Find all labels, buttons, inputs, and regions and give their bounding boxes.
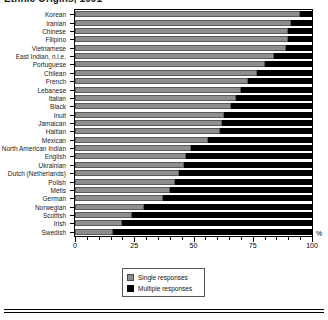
bar-row bbox=[75, 212, 312, 218]
bar-row bbox=[75, 95, 312, 101]
category-label: Filipino bbox=[45, 36, 66, 43]
bar-row bbox=[75, 103, 312, 109]
category-label: French bbox=[46, 78, 66, 85]
legend-item: Multiple responses bbox=[127, 283, 200, 294]
bar-row bbox=[75, 61, 312, 67]
category-tick bbox=[70, 123, 74, 124]
bar-segment-multiple bbox=[248, 78, 312, 84]
bar-row bbox=[75, 220, 312, 226]
bar-row bbox=[75, 137, 312, 143]
bar-row bbox=[75, 78, 312, 84]
x-axis-tick-label: 100 bbox=[306, 242, 318, 249]
bar-segment-multiple bbox=[257, 70, 312, 76]
category-tick bbox=[70, 98, 74, 99]
bar-segment-single bbox=[75, 229, 113, 235]
bar-segment-single bbox=[75, 61, 265, 67]
bar-row bbox=[75, 153, 312, 159]
x-axis-tick-label: 0 bbox=[73, 242, 77, 249]
bar-row bbox=[75, 112, 312, 118]
category-label: Ukrainian bbox=[39, 161, 66, 168]
category-label: Norwegian bbox=[35, 203, 66, 210]
category-tick bbox=[70, 48, 74, 49]
bar-segment-multiple bbox=[175, 179, 312, 185]
category-label: Métis bbox=[50, 186, 66, 193]
x-axis-minor-tick bbox=[205, 237, 206, 240]
x-axis-minor-tick bbox=[87, 237, 88, 240]
bar-segment-multiple bbox=[113, 229, 312, 235]
x-axis-minor-tick bbox=[241, 237, 242, 240]
bar-segment-single bbox=[75, 87, 241, 93]
bar-segment-single bbox=[75, 170, 179, 176]
bar-segment-single bbox=[75, 28, 288, 34]
bar-segment-single bbox=[75, 179, 175, 185]
bar-segment-multiple bbox=[184, 162, 312, 168]
category-tick bbox=[70, 115, 74, 116]
bar-segment-multiple bbox=[236, 95, 312, 101]
bar-row bbox=[75, 179, 312, 185]
bar-segment-multiple bbox=[286, 45, 312, 51]
category-label: Vietnamese bbox=[32, 44, 66, 51]
bar-segment-single bbox=[75, 195, 163, 201]
bar-row bbox=[75, 45, 312, 51]
bar-segment-single bbox=[75, 153, 186, 159]
bar-row bbox=[75, 229, 312, 235]
bar-segment-single bbox=[75, 36, 288, 42]
bar-row bbox=[75, 204, 312, 210]
bar-row bbox=[75, 28, 312, 34]
category-tick bbox=[70, 14, 74, 15]
category-label: Polish bbox=[48, 178, 66, 185]
category-label: Chilean bbox=[44, 69, 66, 76]
category-label: Iranian bbox=[46, 19, 66, 26]
x-axis-tick-label: 25 bbox=[130, 242, 138, 249]
category-label: Haitian bbox=[46, 128, 66, 135]
x-axis-tick-label: 50 bbox=[190, 242, 198, 249]
category-label: Portuguese bbox=[33, 61, 66, 68]
category-label: Inuit bbox=[54, 111, 66, 118]
bar-segment-single bbox=[75, 212, 132, 218]
bar-segment-single bbox=[75, 112, 224, 118]
bar-segment-multiple bbox=[231, 103, 312, 109]
bar-segment-multiple bbox=[274, 53, 312, 59]
category-label: Mexican bbox=[42, 136, 66, 143]
bar-segment-multiple bbox=[132, 212, 312, 218]
bar-row bbox=[75, 187, 312, 193]
footer-divider bbox=[4, 309, 324, 310]
category-tick bbox=[70, 198, 74, 199]
bar-segment-single bbox=[75, 220, 122, 226]
category-label: Black bbox=[50, 103, 66, 110]
bar-row bbox=[75, 36, 312, 42]
category-tick bbox=[70, 81, 74, 82]
bar-row bbox=[75, 170, 312, 176]
x-axis-minor-tick bbox=[170, 237, 171, 240]
chart-title: Ethnic Origins, 1991 bbox=[4, 0, 102, 4]
category-label: Italian bbox=[49, 94, 66, 101]
category-tick bbox=[70, 173, 74, 174]
x-axis-minor-tick bbox=[182, 237, 183, 240]
bar-row bbox=[75, 128, 312, 134]
bar-row bbox=[75, 70, 312, 76]
x-axis-minor-tick bbox=[122, 237, 123, 240]
category-label: Korean bbox=[45, 11, 66, 18]
ethnic-origins-bar-chart: Ethnic Origins, 1991 KoreanIranianChines… bbox=[0, 0, 328, 320]
x-axis-minor-tick bbox=[99, 237, 100, 240]
category-label: Lebanese bbox=[37, 86, 66, 93]
legend-label-multiple: Multiple responses bbox=[138, 285, 192, 292]
bar-row bbox=[75, 20, 312, 26]
bar-segment-multiple bbox=[122, 220, 312, 226]
bar-segment-single bbox=[75, 120, 222, 126]
category-tick bbox=[70, 131, 74, 132]
x-axis-minor-tick bbox=[300, 237, 301, 240]
category-tick bbox=[70, 106, 74, 107]
legend-item: Single responses bbox=[127, 272, 200, 283]
category-label: Scottish bbox=[43, 212, 66, 219]
category-axis: KoreanIranianChineseFilipinoVietnameseEa… bbox=[0, 9, 70, 237]
category-tick bbox=[70, 156, 74, 157]
bar-row bbox=[75, 87, 312, 93]
x-axis-minor-tick bbox=[288, 237, 289, 240]
category-tick bbox=[70, 148, 74, 149]
bar-segment-multiple bbox=[288, 28, 312, 34]
bar-segment-single bbox=[75, 70, 257, 76]
bar-segment-multiple bbox=[186, 153, 312, 159]
bar-row bbox=[75, 195, 312, 201]
bar-row bbox=[75, 11, 312, 17]
